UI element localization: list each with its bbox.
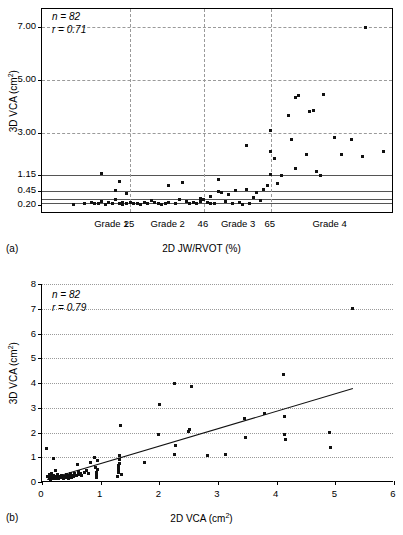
panel-b-plot-area	[41, 284, 393, 482]
panel-a-plot-area	[41, 8, 393, 213]
panel-b-data-point	[118, 462, 121, 465]
panel-a-data-point	[319, 174, 322, 177]
panel-b-y-tick-label: 4	[31, 378, 36, 388]
panel-a-data-point	[269, 150, 272, 153]
panel-a-data-point	[266, 184, 269, 187]
panel-a-data-point	[252, 196, 255, 199]
panel-a-data-point	[294, 167, 297, 170]
panel-a-x-tick-label: Grade 3	[221, 219, 255, 229]
panel-b-gridline-y	[42, 408, 393, 409]
panel-a-data-point	[114, 198, 117, 201]
panel-b-data-point	[188, 428, 191, 431]
panel-b-data-point	[283, 433, 286, 436]
panel-b-data-point	[87, 472, 90, 475]
panel-a-data-point	[245, 144, 248, 147]
panel-a-data-point	[167, 201, 170, 204]
panel-a-x-axis-title: 2D JW/RVOT (%)	[0, 243, 403, 254]
panel-b-gridline-y	[42, 309, 393, 310]
panel-a-x-tick-label: 65	[265, 219, 276, 229]
panel-a-data-point	[209, 195, 212, 198]
panel-a-data-point	[181, 181, 184, 184]
panel-a-data-point	[72, 203, 75, 206]
panel-b-data-point	[284, 438, 287, 441]
panel-b-y-tick	[38, 408, 42, 409]
panel-b-x-tick-label: 3	[214, 489, 219, 499]
panel-a-grade-boundary	[130, 9, 131, 212]
panel-b-x-tick	[277, 481, 278, 485]
panel-a-y-tick-label: 3.00	[18, 127, 37, 137]
panel-b-data-point	[244, 436, 247, 439]
panel-a-data-point	[290, 138, 293, 141]
panel-b-data-point	[173, 453, 176, 456]
panel-a-y-tick	[38, 27, 42, 28]
panel-a-data-point	[382, 150, 385, 153]
panel-a-data-point	[340, 153, 343, 156]
panel-b: n = 82 r = 0.79 2D VCA (cm2) 3D VCA (cm2…	[0, 262, 403, 535]
figure-container: n = 82 r = 0.71 2D JW/RVOT (%) 3D VCA (c…	[0, 0, 403, 535]
panel-b-y-tick-label: 3	[31, 403, 36, 413]
panel-b-data-point	[174, 444, 177, 447]
panel-b-y-tick	[38, 334, 42, 335]
panel-a-data-point	[146, 202, 149, 205]
panel-a-data-point	[259, 199, 262, 202]
panel-b-data-point	[52, 457, 55, 460]
panel-a-grade-boundary	[204, 9, 205, 212]
panel-b-x-tick-label: 2	[156, 489, 161, 499]
panel-b-data-point	[96, 468, 99, 471]
panel-a-data-point	[322, 93, 325, 96]
panel-b-data-point	[76, 463, 79, 466]
panel-b-y-tick	[38, 383, 42, 384]
panel-a-x-tick-label: 25	[124, 219, 135, 229]
panel-b-n-annotation: n = 82	[52, 288, 80, 301]
panel-a-data-point	[234, 189, 237, 192]
panel-b-data-point	[282, 373, 285, 376]
panel-b-x-tick	[218, 481, 219, 485]
panel-a-data-point	[262, 188, 265, 191]
panel-a-data-point	[227, 193, 230, 196]
panel-b-data-point	[206, 454, 209, 457]
panel-a: n = 82 r = 0.71 2D JW/RVOT (%) 3D VCA (c…	[0, 0, 403, 262]
panel-a-y-tick-label: 0.20	[18, 199, 37, 209]
panel-a-data-point	[114, 189, 117, 192]
panel-a-data-point	[361, 155, 364, 158]
panel-b-y-tick-label: 7	[31, 304, 36, 314]
panel-a-x-tick-label: 46	[198, 219, 209, 229]
panel-a-data-point	[305, 153, 308, 156]
panel-b-y-tick	[38, 433, 42, 434]
panel-b-x-tick	[335, 481, 336, 485]
panel-a-data-point	[273, 157, 276, 160]
panel-a-data-point	[217, 178, 220, 181]
panel-b-data-point	[95, 471, 98, 474]
panel-b-x-tick	[159, 481, 160, 485]
panel-b-r-annotation: r = 0.79	[52, 301, 86, 314]
panel-b-data-point	[119, 424, 122, 427]
panel-b-x-tick	[101, 481, 102, 485]
panel-a-label: (a)	[6, 243, 18, 254]
panel-a-y-tick-label: 5.00	[18, 74, 37, 84]
panel-a-y-tick	[38, 133, 42, 134]
panel-b-gridline-y	[42, 334, 393, 335]
panel-a-data-point	[231, 202, 234, 205]
panel-a-r-annotation: r = 0.71	[52, 23, 86, 36]
panel-b-data-point	[89, 461, 92, 464]
panel-a-reference-line	[42, 199, 392, 200]
panel-b-y-tick	[38, 457, 42, 458]
panel-b-y-tick-label: 8	[31, 279, 36, 289]
panel-b-data-point	[328, 431, 331, 434]
panel-b-data-point	[190, 385, 193, 388]
panel-a-gridline-y	[42, 80, 392, 81]
panel-a-y-tick-label: 1.15	[18, 169, 37, 179]
panel-a-n-annotation: n = 82	[52, 10, 80, 23]
panel-b-x-tick-label: 6	[390, 489, 395, 499]
panel-a-y-tick-label: 7.00	[18, 21, 37, 31]
panel-a-y-tick	[38, 191, 42, 192]
panel-a-data-point	[111, 202, 114, 205]
panel-a-data-point	[364, 26, 367, 29]
panel-b-y-tick	[38, 309, 42, 310]
panel-a-data-point	[224, 200, 227, 203]
panel-a-data-point	[241, 203, 244, 206]
panel-a-data-point	[83, 202, 86, 205]
panel-a-data-point	[276, 182, 279, 185]
panel-b-y-tick-label: 5	[31, 354, 36, 364]
panel-b-data-point	[157, 433, 160, 436]
